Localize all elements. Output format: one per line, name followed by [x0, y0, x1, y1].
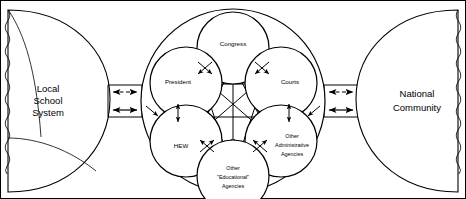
node-other-educational-agencies-label-line-2: "Educational" [217, 174, 249, 180]
national-community-label-line-1: National [400, 88, 435, 99]
node-congress-label: Congress [220, 40, 246, 47]
right-channel-outline [324, 85, 358, 117]
local-school-system-group: Local School System [5, 10, 110, 192]
national-community-label-line-2: Community [393, 102, 441, 113]
local-school-system-label-line-1: Local [37, 83, 60, 94]
node-other-educational-agencies-label-line-1: Other [226, 165, 240, 171]
node-other-administrative-agencies-label-line-3: Agencies [281, 151, 303, 157]
node-hew-label: HEW [174, 142, 189, 149]
national-community-group: National Community [356, 10, 461, 192]
left-channel-outline [108, 85, 142, 117]
node-other-educational-agencies-label-line-3: Agencies [222, 183, 244, 189]
node-courts-label: Courts [281, 78, 299, 85]
node-other-administrative-agencies-label-line-2: Administrative [275, 142, 309, 148]
right-connector-channel [324, 85, 358, 117]
federal-policy-arena-group: Congress President Courts HEW Other Admi… [141, 9, 325, 199]
diagram-canvas: Local School System National Community [0, 0, 466, 199]
left-connector-channel [108, 85, 142, 117]
node-other-administrative-agencies-label-line-1: Other [285, 133, 299, 139]
diagram-figure: Local School System National Community [0, 0, 466, 199]
local-school-system-label-line-3: System [32, 107, 64, 118]
node-president-label: President [165, 78, 191, 85]
local-school-system-label-line-2: School [33, 95, 62, 106]
